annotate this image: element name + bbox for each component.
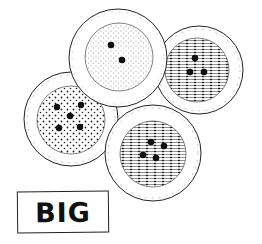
button-hole	[56, 125, 62, 131]
size-label-box: BIG	[17, 191, 109, 234]
button-hole	[192, 55, 199, 62]
button-hole	[119, 57, 126, 64]
button-hole	[161, 143, 168, 150]
button-hole	[67, 113, 73, 119]
button-hole	[148, 139, 155, 146]
size-label: BIG	[35, 196, 91, 228]
button-hole	[140, 152, 147, 159]
button-hole	[77, 124, 83, 130]
button-hole	[153, 155, 160, 162]
button-hole	[78, 102, 84, 108]
button-bottom	[105, 105, 201, 201]
button-hole	[108, 42, 115, 49]
button-hole	[54, 104, 60, 110]
button-right	[155, 26, 243, 114]
button-hole	[201, 69, 208, 76]
button-hole	[187, 69, 194, 76]
button-top	[69, 9, 167, 107]
